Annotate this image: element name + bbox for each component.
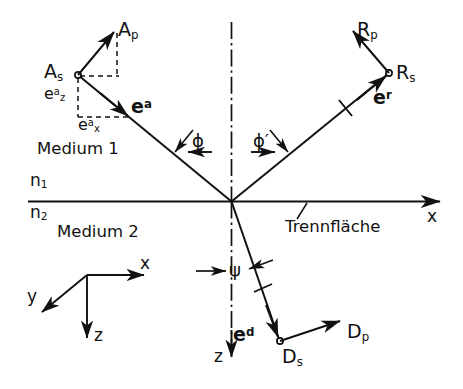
- label-reflected-rp: Rp: [357, 20, 378, 41]
- label-incident-unit-vector: ea: [131, 97, 152, 116]
- diagram-canvas: [0, 0, 463, 389]
- refracted-dp-vector-arrow: [280, 321, 340, 341]
- label-refracted-unit-vector: ed: [233, 325, 254, 344]
- label-triad-y: y: [27, 288, 37, 305]
- label-refracted-dp: Dp: [347, 322, 369, 343]
- label-refractive-index-n1: n1: [30, 172, 47, 190]
- label-angle-phi: ϕ: [192, 132, 204, 150]
- label-axis-x: x: [427, 208, 437, 225]
- triad-y-axis: [42, 275, 87, 312]
- reflected-ray-group: [232, 31, 393, 202]
- optics-ray-diagram: Ap As ea eaz eax Medium 1 n1 n2 Medium 2…: [0, 0, 463, 389]
- label-refractive-index-n2: n2: [30, 204, 47, 222]
- phi-arrow-to-ray: [175, 130, 193, 152]
- label-angle-phi-prime: ϕ′: [253, 132, 269, 150]
- label-reflected-rs: Rs: [396, 63, 415, 84]
- label-trennflaeche: Trennfläche: [285, 219, 380, 236]
- incident-unit-vector-arrow: [100, 93, 128, 116]
- label-reflected-unit-vector: er: [373, 88, 392, 107]
- phiprime-arrow-to-ray: [270, 130, 288, 152]
- refracted-unit-vector-arrow: [266, 305, 278, 337]
- coordinate-triad: [42, 275, 144, 338]
- label-axis-z: z: [214, 348, 223, 365]
- incident-ap-vector-arrow: [78, 32, 114, 75]
- label-incident-as: As: [44, 62, 63, 83]
- label-medium-1: Medium 1: [37, 141, 119, 158]
- label-triad-x: x: [140, 255, 150, 272]
- label-refracted-ds: Ds: [282, 347, 303, 368]
- label-incident-ez-component: eaz: [44, 86, 65, 103]
- label-incident-ap: Ap: [118, 20, 138, 41]
- label-angle-psi: ψ: [229, 261, 241, 279]
- label-medium-2: Medium 2: [57, 224, 139, 241]
- label-incident-ex-component: eax: [78, 117, 100, 134]
- label-triad-z: z: [94, 327, 103, 344]
